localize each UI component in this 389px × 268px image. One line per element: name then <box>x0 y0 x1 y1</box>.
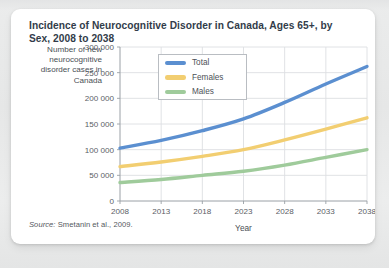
x-axis-ticks: 2008201320182023202820332038 <box>111 201 375 216</box>
svg-text:2033: 2033 <box>317 207 336 216</box>
svg-text:2023: 2023 <box>234 207 253 216</box>
plot-area: Number of new neurocognitive disorder ca… <box>11 9 375 244</box>
svg-text:2028: 2028 <box>276 207 295 216</box>
legend-item-females: Females <box>165 71 246 85</box>
figure-card: Incidence of Neurocognitive Disorder in … <box>11 9 375 244</box>
legend-swatch-females <box>165 75 186 80</box>
source-note: Source: Smetanin et al., 2009. <box>29 220 133 229</box>
source-text: Smetanin et al., 2009. <box>58 220 133 229</box>
svg-text:2038: 2038 <box>358 207 375 216</box>
source-label: Source: <box>29 220 56 229</box>
legend-label-total: Total <box>192 58 209 67</box>
svg-text:2013: 2013 <box>152 207 171 216</box>
y-axis-ticks: 050 000100 000150 000200 000250 000300 0… <box>85 43 120 206</box>
svg-text:0: 0 <box>109 197 114 206</box>
svg-text:200 000: 200 000 <box>85 94 115 103</box>
screenshot-root: Incidence of Neurocognitive Disorder in … <box>0 0 389 268</box>
legend-label-females: Females <box>192 73 223 82</box>
legend-item-males: Males <box>165 85 246 99</box>
line-chart-svg: 050 000100 000150 000200 000250 000300 0… <box>11 9 375 244</box>
svg-text:250 000: 250 000 <box>85 69 115 78</box>
svg-text:50 000: 50 000 <box>89 171 114 180</box>
svg-text:150 000: 150 000 <box>85 120 115 129</box>
svg-text:2018: 2018 <box>193 207 212 216</box>
svg-text:300 000: 300 000 <box>85 43 115 52</box>
svg-text:2008: 2008 <box>111 207 130 216</box>
x-axis-label: Year <box>120 223 367 233</box>
svg-text:100 000: 100 000 <box>85 146 115 155</box>
legend-label-males: Males <box>192 87 214 96</box>
legend-swatch-total <box>165 61 186 66</box>
chart-legend: Total Females Males <box>158 54 247 100</box>
legend-swatch-males <box>165 90 186 95</box>
legend-item-total: Total <box>165 56 246 70</box>
